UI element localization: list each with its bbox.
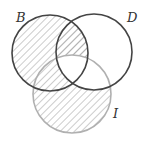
label-i: I xyxy=(112,106,119,121)
label-d: D xyxy=(126,10,138,25)
label-b: B xyxy=(15,10,26,25)
venn-diagram: B D I xyxy=(0,0,150,148)
